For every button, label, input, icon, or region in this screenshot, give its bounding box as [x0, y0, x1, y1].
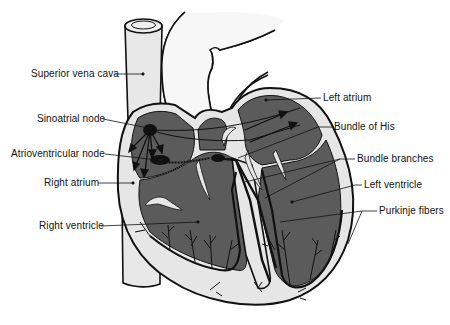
label-right-atrium: Right atrium — [44, 177, 99, 189]
label-sinoatrial-node: Sinoatrial node — [37, 113, 105, 125]
label-bundle-branches: Bundle branches — [357, 153, 434, 165]
label-left-atrium: Left atrium — [323, 92, 371, 104]
label-atrioventricular-node: Atrioventricular node — [11, 148, 105, 160]
label-right-ventricle: Right ventricle — [39, 220, 104, 232]
label-superior-vena-cava: Superior vena cava — [31, 68, 119, 80]
label-purkinje-fibers: Purkinje fibers — [379, 205, 444, 217]
label-left-ventricle: Left ventricle — [364, 179, 422, 191]
label-bundle-of-his: Bundle of His — [334, 121, 395, 133]
